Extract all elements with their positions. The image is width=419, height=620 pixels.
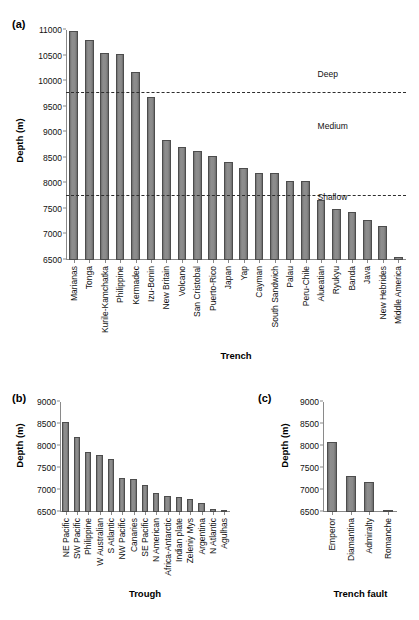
y-tick-label: 8000 — [300, 441, 323, 451]
bar — [224, 162, 233, 260]
x-tick-mark — [259, 260, 260, 263]
x-tick-label: San Cristobal — [192, 266, 202, 317]
x-tick-label: Alueatian — [316, 266, 326, 301]
reference-line — [66, 92, 406, 93]
panel-b: (b) Depth (m) 650070007500800085009000 N… — [0, 388, 250, 620]
x-tick-label: NE Pacific — [61, 518, 71, 557]
x-tick-mark — [367, 260, 368, 263]
x-label-cell: S Atlantic — [105, 516, 116, 586]
bar — [96, 455, 102, 512]
x-label-cell: Peru-Chile — [298, 264, 313, 346]
bar — [74, 437, 80, 512]
x-label-cell: NW Pacific — [117, 516, 128, 586]
x-label-cell: Kurile-Kamchatka — [97, 264, 112, 346]
x-label-cell: Indian plate — [173, 516, 184, 586]
bar — [119, 478, 125, 512]
x-tick-label: Izu-Bonin — [146, 266, 156, 302]
y-tick-label: 8000 — [37, 441, 60, 451]
bar-item — [196, 402, 207, 512]
y-tick-mark — [63, 182, 66, 183]
x-tick-label: Palau — [285, 266, 295, 288]
x-label-cell: Kermadec — [128, 264, 143, 346]
x-tick-label: Argentina — [197, 518, 207, 554]
x-tick-mark — [398, 260, 399, 263]
x-tick-label: Puerto-Rico — [208, 266, 218, 311]
x-label-cell: Romanche — [379, 516, 398, 586]
y-tick-mark — [57, 445, 60, 446]
x-label-cell: Yap — [236, 264, 251, 346]
y-tick-mark — [57, 489, 60, 490]
panel-c-x-axis-title: Trench fault — [313, 588, 408, 599]
y-tick-mark — [63, 80, 66, 81]
x-tick-mark — [224, 512, 225, 515]
x-label-cell: San Cristobal — [190, 264, 205, 346]
bar — [327, 442, 337, 512]
bar-item — [207, 402, 218, 512]
x-tick-mark — [134, 512, 135, 515]
bar-item — [329, 30, 344, 260]
y-tick-label: 7500 — [43, 204, 66, 214]
panel-b-y-axis-title: Depth (m) — [14, 411, 25, 481]
bar-item — [128, 30, 143, 260]
bar — [69, 31, 78, 260]
panel-c-plot-area: 650070007500800085009000 — [323, 402, 397, 512]
bar-item — [105, 402, 116, 512]
bar-item — [323, 402, 342, 512]
y-tick-mark — [63, 29, 66, 30]
panel-b-tag: (b) — [12, 392, 26, 404]
x-tick-label: Japan — [223, 266, 233, 289]
x-label-cell: Philippine — [83, 516, 94, 586]
panel-b-x-labels: NE PacificSW PacificPhilippineW Australi… — [60, 516, 230, 586]
y-tick-label: 7000 — [37, 485, 60, 495]
bar-item — [375, 30, 390, 260]
bar — [363, 220, 372, 260]
y-tick-label: 7000 — [300, 485, 323, 495]
x-tick-label: Romanche — [383, 518, 393, 559]
bar — [85, 40, 94, 260]
bar-item — [60, 402, 71, 512]
bar-item — [282, 30, 297, 260]
x-tick-label: Philippine — [115, 266, 125, 303]
y-tick-label: 9000 — [43, 127, 66, 137]
bar — [348, 212, 357, 260]
bar-item — [143, 30, 158, 260]
x-tick-mark — [213, 260, 214, 263]
x-tick-label: New Hebrides — [378, 266, 388, 319]
x-tick-label: S Atlantic — [106, 518, 116, 553]
y-tick-label: 8500 — [300, 419, 323, 429]
bar-item — [174, 30, 189, 260]
x-label-cell: Marianas — [66, 264, 81, 346]
x-tick-mark — [136, 260, 137, 263]
panel-a-bars — [66, 30, 406, 260]
x-tick-label: N American — [151, 518, 161, 562]
y-tick-mark — [320, 467, 323, 468]
x-tick-label: SW Pacific — [72, 518, 82, 559]
x-tick-mark — [213, 512, 214, 515]
x-label-cell: Middle America — [391, 264, 406, 346]
x-tick-mark — [111, 512, 112, 515]
x-label-cell: Palau — [282, 264, 297, 346]
x-tick-label: Emperor — [327, 518, 337, 551]
x-tick-mark — [369, 512, 370, 515]
x-tick-label: Volcano — [177, 266, 187, 296]
bar-item — [128, 402, 139, 512]
x-tick-label: Indian plate — [174, 518, 184, 562]
bar — [176, 497, 182, 512]
x-tick-mark — [120, 260, 121, 263]
x-tick-label: Admiralty — [364, 518, 374, 553]
panel-b-bars — [60, 402, 230, 512]
x-tick-label: NW Pacific — [117, 518, 127, 560]
bar-item — [159, 30, 174, 260]
bar-item — [81, 30, 96, 260]
x-tick-mark — [336, 260, 337, 263]
x-tick-label: W Australian — [95, 518, 105, 566]
y-tick-label: 7500 — [37, 463, 60, 473]
bar-item — [205, 30, 220, 260]
bar — [332, 209, 341, 260]
bar-item — [251, 30, 266, 260]
bar-item — [219, 402, 230, 512]
bar-item — [391, 30, 406, 260]
panel-a-x-axis-title: Trench — [66, 350, 406, 361]
y-tick-mark — [63, 54, 66, 55]
bar — [147, 97, 156, 260]
